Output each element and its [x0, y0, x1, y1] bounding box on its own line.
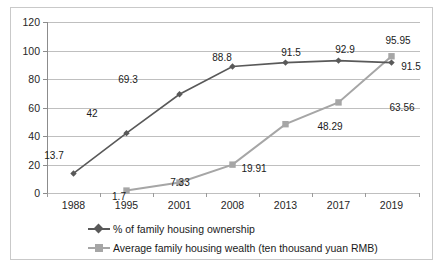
data-label-wealth: 48.29: [317, 121, 342, 132]
data-point-marker: [388, 59, 394, 65]
data-point-marker: [229, 63, 235, 69]
data-label-ownership: 88.8: [212, 52, 231, 63]
legend-label: Average family housing wealth (ten thous…: [113, 242, 378, 254]
legend-label: % of family housing ownership: [113, 223, 255, 235]
data-label-wealth: 7.33: [170, 177, 189, 188]
data-label-wealth: 1.7: [112, 191, 126, 202]
data-label-wealth: 95.95: [385, 35, 410, 46]
diamond-marker-icon: [88, 223, 110, 235]
legend: % of family housing ownership Average fa…: [88, 219, 388, 257]
data-label-wealth: 19.91: [241, 163, 266, 174]
data-point-marker: [282, 59, 288, 65]
data-label-ownership: 91.5: [401, 61, 420, 72]
data-label-ownership: 42: [86, 108, 97, 119]
square-marker-icon: [88, 242, 110, 254]
data-label-ownership: 13.7: [44, 150, 63, 161]
data-point-marker: [335, 99, 341, 105]
data-point-marker: [282, 121, 288, 127]
data-point-marker: [335, 57, 341, 63]
chart-container: 120 100 80 60 40 20 0 1988 1995 2001 200…: [0, 0, 443, 271]
legend-item-wealth[interactable]: Average family housing wealth (ten thous…: [88, 238, 388, 257]
data-point-marker: [388, 53, 394, 59]
data-label-ownership: 91.5: [281, 47, 300, 58]
data-point-marker: [229, 161, 235, 167]
data-label-wealth: 63.56: [389, 102, 414, 113]
legend-item-ownership[interactable]: % of family housing ownership: [88, 219, 388, 238]
data-label-ownership: 69.3: [118, 74, 137, 85]
data-label-ownership: 92.9: [335, 44, 354, 55]
